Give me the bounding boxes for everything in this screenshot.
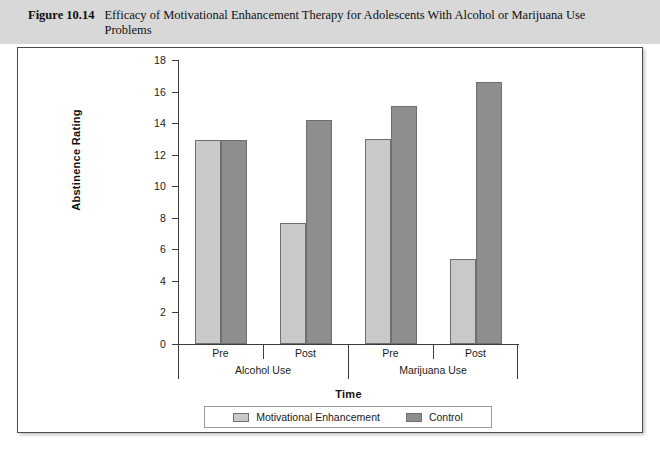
x-axis-category-label: Pre (212, 347, 228, 359)
x-axis-group-tick (348, 359, 349, 379)
legend-entry-1: Control (406, 411, 463, 423)
y-axis-tick-label: 4 (106, 275, 166, 287)
y-axis-tick-label: 10 (106, 180, 166, 192)
bar-control-1 (306, 120, 332, 344)
x-axis-category-label: Post (295, 347, 316, 359)
x-axis-category-label: Pre (382, 347, 398, 359)
y-axis-tick-label: 14 (106, 117, 166, 129)
chart-frame: 181614121086420 Abstinence Rating PrePos… (17, 47, 643, 433)
bar-control-3 (476, 82, 502, 344)
x-axis-group-tick (517, 359, 518, 379)
y-axis-tick-label: 12 (106, 149, 166, 161)
y-axis-title: Abstinence Rating (70, 80, 82, 240)
bar-control-2 (391, 106, 417, 344)
legend-label: Control (429, 411, 463, 423)
bar-motivational-enhancement-1 (280, 223, 306, 344)
bar-motivational-enhancement-0 (195, 140, 221, 344)
x-axis-tick (263, 344, 264, 359)
plot-area (178, 60, 518, 344)
x-axis-group-label: Alcohol Use (235, 364, 291, 376)
legend-label: Motivational Enhancement (256, 411, 380, 423)
chart-legend: Motivational EnhancementControl (204, 406, 492, 428)
legend-swatch-icon (233, 413, 249, 422)
y-axis-tick-label: 6 (106, 243, 166, 255)
y-axis-tick-label: 0 (106, 338, 166, 350)
figure-caption: Figure 10.14 Efficacy of Motivational En… (28, 8, 642, 38)
bar-motivational-enhancement-2 (365, 139, 391, 344)
x-axis-tick (348, 344, 349, 359)
x-axis-tick (433, 344, 434, 359)
legend-entry-0: Motivational Enhancement (233, 411, 380, 423)
x-axis-tick (517, 344, 518, 359)
bar-motivational-enhancement-3 (450, 259, 476, 344)
y-axis-tick-label: 18 (106, 54, 166, 66)
x-axis-tick (178, 344, 179, 359)
x-axis-title: Time (178, 388, 519, 400)
x-axis-category-label: Post (465, 347, 486, 359)
y-axis-tick-label: 16 (106, 86, 166, 98)
figure-title: Efficacy of Motivational Enhancement The… (104, 8, 614, 38)
y-axis-tick-label: 2 (106, 306, 166, 318)
legend-swatch-icon (406, 413, 422, 422)
bar-control-0 (221, 140, 247, 344)
x-axis-group-tick (178, 359, 179, 379)
figure-number: Figure 10.14 (28, 8, 104, 23)
y-axis-tick-label: 8 (106, 212, 166, 224)
figure-caption-band: Figure 10.14 Efficacy of Motivational En… (0, 0, 660, 44)
x-axis-group-label: Marijuana Use (399, 364, 467, 376)
